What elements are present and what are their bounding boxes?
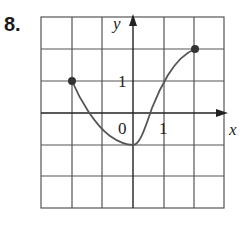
x-axis-arrow-icon — [216, 109, 228, 117]
y-axis-label: y — [111, 14, 121, 33]
left-endpoint — [68, 77, 76, 85]
y-axis-arrow-icon — [129, 14, 137, 26]
origin-label: 0 — [118, 119, 127, 138]
function-graph: y x 0 1 1 — [0, 0, 244, 226]
x-axis-label: x — [228, 120, 237, 139]
y-tick-label: 1 — [118, 72, 127, 91]
right-endpoint — [191, 45, 199, 53]
x-tick-label: 1 — [159, 119, 168, 138]
